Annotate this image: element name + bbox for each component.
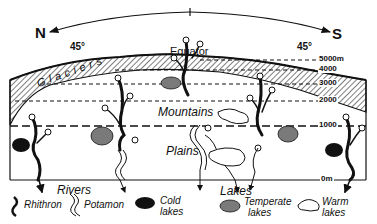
- warm-lake-legend-icon: [298, 200, 319, 211]
- altitude-3000: 3000: [318, 79, 338, 87]
- south-label: S: [332, 26, 342, 41]
- temperate-lake-legend-icon: [220, 200, 240, 212]
- cold-lakes-legend-label-2: lakes: [160, 207, 183, 217]
- latitude-arc: [50, 8, 330, 32]
- temperate-lakes-legend-label-1: Temperate: [244, 197, 291, 207]
- mountains-label: Mountains: [158, 106, 213, 118]
- altitude-4000: 4000: [318, 65, 338, 73]
- plains-label: Plains: [166, 145, 199, 157]
- potamon-legend-label: Potamon: [84, 200, 124, 210]
- rivers-legend-title: Rivers: [57, 184, 91, 196]
- rhithron-legend-icon: [12, 197, 17, 216]
- altitude-1000: 1000: [318, 121, 338, 129]
- temperate-lakes-legend-label-2: lakes: [248, 208, 271, 218]
- latitude-right-label: 45°: [297, 42, 312, 52]
- warm-lakes-legend-label-2: lakes: [322, 208, 345, 218]
- altitude-0: 0m: [320, 175, 334, 183]
- warm-lakes-legend-label-1: Warm: [322, 197, 348, 207]
- warm-lakes: [209, 109, 249, 166]
- equator-label: Equator: [170, 46, 209, 57]
- altitude-5000: 5000m: [318, 55, 345, 63]
- altitude-2000: 2000: [318, 96, 338, 104]
- cold-lakes-legend-label-1: Cold: [160, 196, 181, 206]
- north-label: N: [35, 25, 46, 40]
- latitude-left-label: 45°: [70, 42, 85, 52]
- cold-lake-legend-icon: [135, 197, 155, 209]
- rhithron-legend-label: Rhithron: [24, 200, 62, 210]
